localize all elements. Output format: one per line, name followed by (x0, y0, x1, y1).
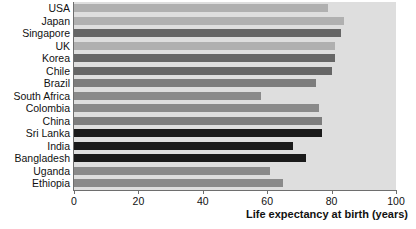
table-row: India (0, 140, 416, 153)
x-tick-mark (203, 190, 204, 194)
table-row: Brazil (0, 77, 416, 90)
bar (74, 167, 270, 175)
category-label: Ethiopia (0, 177, 70, 190)
category-label: Sri Lanka (0, 127, 70, 140)
bar (74, 29, 341, 37)
table-row: Korea (0, 52, 416, 65)
bar (74, 104, 319, 112)
x-tick-mark (138, 190, 139, 194)
table-row: Bangladesh (0, 152, 416, 165)
category-label: Japan (0, 15, 70, 28)
x-tick-mark (74, 190, 75, 194)
table-row: Singapore (0, 27, 416, 40)
table-row: Sri Lanka (0, 127, 416, 140)
category-label: China (0, 115, 70, 128)
x-tick-label: 60 (247, 195, 287, 207)
x-tick-mark (332, 190, 333, 194)
x-tick-mark (396, 190, 397, 194)
table-row: China (0, 115, 416, 128)
category-label: USA (0, 2, 70, 15)
x-tick-label: 40 (183, 195, 223, 207)
bar (74, 42, 335, 50)
table-row: Colombia (0, 102, 416, 115)
bar (74, 154, 306, 162)
x-tick-label: 80 (312, 195, 352, 207)
x-tick-label: 20 (118, 195, 158, 207)
bar (74, 17, 344, 25)
bar (74, 179, 283, 187)
life-expectancy-bar-chart: USAJapanSingaporeUKKoreaChileBrazilSouth… (0, 0, 416, 229)
table-row: Uganda (0, 165, 416, 178)
table-row: South Africa (0, 90, 416, 103)
category-label: Brazil (0, 77, 70, 90)
bar (74, 67, 332, 75)
x-tick-label: 0 (54, 195, 94, 207)
x-tick-label: 100 (376, 195, 416, 207)
category-label: South Africa (0, 90, 70, 103)
bar (74, 142, 293, 150)
bar (74, 54, 335, 62)
category-label: India (0, 140, 70, 153)
category-label: UK (0, 40, 70, 53)
bar (74, 4, 328, 12)
x-axis-line (73, 190, 397, 191)
category-label: Chile (0, 65, 70, 78)
category-label: Singapore (0, 27, 70, 40)
category-label: Bangladesh (0, 152, 70, 165)
x-axis-title: Life expectancy at birth (years) (0, 208, 408, 220)
table-row: UK (0, 40, 416, 53)
bar (74, 79, 316, 87)
table-row: USA (0, 2, 416, 15)
table-row: Japan (0, 15, 416, 28)
category-label: Colombia (0, 102, 70, 115)
category-label: Korea (0, 52, 70, 65)
bar (74, 92, 261, 100)
category-label: Uganda (0, 165, 70, 178)
x-tick-mark (267, 190, 268, 194)
bar (74, 129, 322, 137)
bar (74, 117, 322, 125)
table-row: Chile (0, 65, 416, 78)
table-row: Ethiopia (0, 177, 416, 190)
